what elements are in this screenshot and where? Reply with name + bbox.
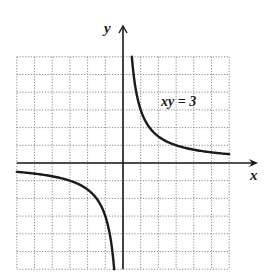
- x-axis-label: x: [249, 167, 258, 183]
- curve-equation-label: xy = 3: [160, 94, 196, 109]
- hyperbola-chart: x y xy = 3: [0, 0, 270, 276]
- hyperbola-branch-q3: [17, 172, 114, 269]
- y-axis-label: y: [102, 20, 111, 36]
- axes: [17, 26, 258, 269]
